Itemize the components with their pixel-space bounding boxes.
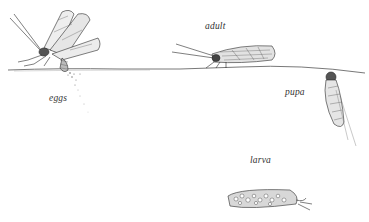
illustration <box>0 0 369 222</box>
eggs-label: eggs <box>49 93 67 103</box>
larva-figure <box>228 190 312 210</box>
adult-label: adult <box>205 21 226 31</box>
larva-label: larva <box>250 155 271 165</box>
egg-laying-adult-figure <box>10 10 100 71</box>
pupa-figure <box>325 72 356 146</box>
adult-figure <box>172 44 275 68</box>
eggs-mass <box>68 72 89 112</box>
life-cycle-diagram: eggs adult pupa larva <box>0 0 369 222</box>
pupa-label: pupa <box>285 87 305 97</box>
